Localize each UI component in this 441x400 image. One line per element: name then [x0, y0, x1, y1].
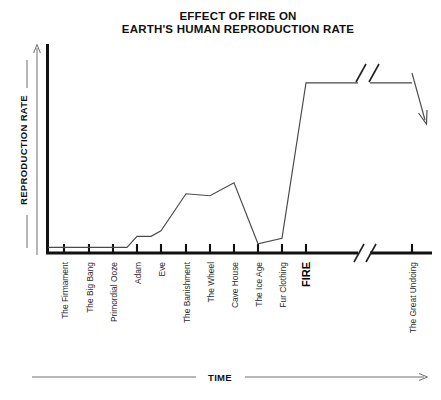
x-tick-label: Eve — [157, 262, 167, 277]
x-tick-label: Fur Clothing — [278, 262, 288, 308]
x-tick-label: FIRE — [300, 262, 312, 287]
x-tick-label: The Big Bang — [85, 262, 95, 313]
x-tick-label: The Ice Age — [254, 262, 264, 307]
arrow-down-right-icon — [412, 73, 427, 124]
fire-reproduction-rate-chart: EFFECT OF FIRE ON EARTH'S HUMAN REPRODUC… — [0, 0, 441, 400]
x-tick-label: Primordial Ooze — [109, 262, 119, 322]
x-axis — [46, 244, 432, 262]
x-tick-label: The Great Undoing — [408, 262, 418, 334]
y-axis: REPRODUCTION RATE — [18, 44, 48, 255]
x-tick-label: The Wheel — [206, 262, 216, 303]
x-axis-tick-labels: The FirmamentThe Big BangPrimordial Ooze… — [60, 261, 418, 333]
x-axis-label: TIME — [208, 372, 232, 383]
x-tick-label: The Firmament — [60, 261, 70, 318]
data-line-break-icon — [356, 64, 379, 82]
data-series-group — [48, 64, 427, 247]
chart-title-line-1: EFFECT OF FIRE ON — [179, 10, 296, 22]
chart-title: EFFECT OF FIRE ON EARTH'S HUMAN REPRODUC… — [122, 10, 354, 35]
x-tick-label: The Banishment — [182, 261, 192, 323]
data-line-left — [48, 83, 358, 248]
y-axis-label: REPRODUCTION RATE — [18, 95, 29, 205]
x-tick-label: Adam — [133, 262, 143, 284]
x-tick-label: Cave House — [230, 262, 240, 308]
chart-title-line-2: EARTH'S HUMAN REPRODUCTION RATE — [122, 23, 354, 35]
x-axis-name-group: TIME — [32, 372, 428, 383]
